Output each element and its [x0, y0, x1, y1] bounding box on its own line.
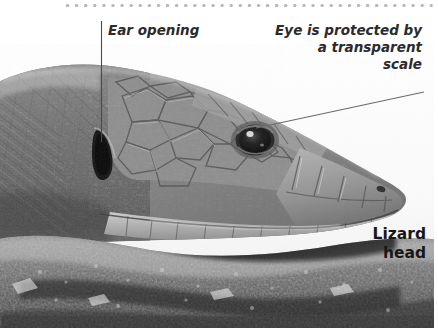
- annotation-ear-opening: Ear opening: [108, 22, 199, 39]
- lizard-head-photo: [0, 44, 434, 328]
- figure-panel: Ear opening Eye is protected by a transp…: [0, 0, 438, 332]
- dotted-rule-divider: [66, 4, 438, 8]
- annotation-transparent-scale: Eye is protected by a transparent scale: [275, 22, 422, 73]
- lizard-photo-graphic: [0, 44, 434, 328]
- figure-title: Lizard head: [373, 225, 426, 263]
